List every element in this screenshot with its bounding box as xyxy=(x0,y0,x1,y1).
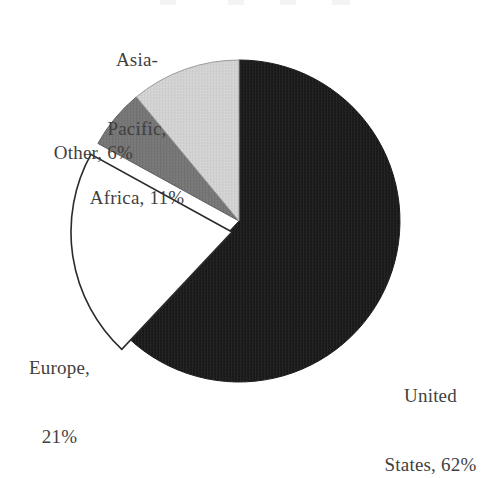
pie-label-other-line-1: Other, 6% xyxy=(8,141,133,164)
pie-label-asia-line-1: Asia- xyxy=(62,48,212,71)
pie-label-other: Other, 6% xyxy=(8,95,133,210)
pie-label-united-states-line-1: United xyxy=(368,384,493,407)
pie-label-europe-line-1: Europe, xyxy=(2,356,117,379)
pie-label-united-states-line-2: States, 62% xyxy=(368,453,493,476)
pie-label-europe: Europe, 21% xyxy=(2,310,117,478)
pie-label-europe-line-2: 21% xyxy=(2,425,117,448)
pie-label-united-states: United States, 62% xyxy=(368,338,493,478)
